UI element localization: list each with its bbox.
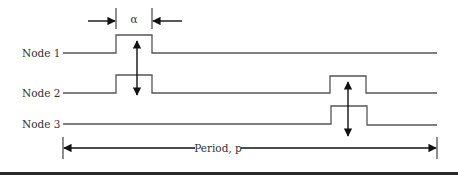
timing-diagram: α Node 1 Node 2 Node 3 Period, p (0, 0, 458, 175)
node-1-label: Node 1 (22, 47, 60, 59)
node-2-signal (63, 75, 437, 93)
node-2-row: Node 2 (22, 75, 437, 99)
node-3-label: Node 3 (22, 118, 60, 130)
period-label: Period, p (194, 142, 242, 154)
bottom-rule (0, 172, 458, 175)
alpha-width-indicator: α (88, 8, 182, 29)
period-indicator: Period, p (63, 137, 437, 159)
node-1-signal (63, 35, 437, 53)
node-1-row: Node 1 (22, 35, 437, 59)
node-2-label: Node 2 (22, 87, 60, 99)
alpha-label: α (130, 13, 137, 25)
node-3-signal (63, 106, 437, 125)
node-3-row: Node 3 (22, 106, 437, 130)
